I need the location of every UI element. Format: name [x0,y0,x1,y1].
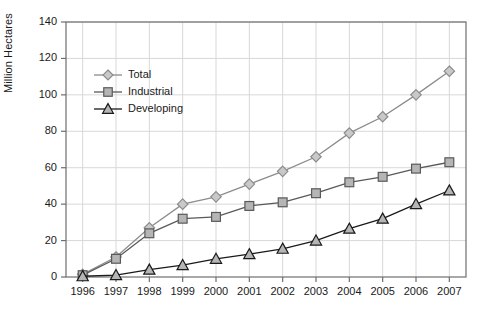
series-line [83,190,450,276]
data-point-square [145,229,154,238]
series-industrial [78,158,454,280]
data-point-square [104,88,113,97]
data-point-diamond [411,90,421,100]
legend-label-total: Total [128,69,151,80]
data-point-square [445,158,454,167]
data-point-square [212,212,221,221]
data-point-diamond [344,128,354,138]
data-point-diamond [311,152,321,162]
series-developing [77,185,455,281]
data-point-triangle [310,235,321,245]
data-point-square [312,189,321,198]
data-point-diamond [103,70,113,80]
axis-ticks [61,22,449,282]
data-point-square [412,164,421,173]
data-point-triangle [410,199,421,209]
line-chart: Million Hectares 020406080100120140 1996… [0,0,485,318]
data-point-square [245,202,254,211]
plot-border [66,22,466,277]
data-point-diamond [444,66,454,76]
gridlines [66,22,466,277]
data-point-diamond [211,192,221,202]
data-point-triangle [444,185,455,195]
data-point-diamond [177,199,187,209]
plot-frame [66,22,466,277]
data-point-diamond [377,112,387,122]
data-point-square [278,198,287,207]
legend-label-developing: Developing [128,103,183,114]
data-point-triangle [377,213,388,223]
data-point-square [378,172,387,181]
data-point-square [112,254,121,263]
series-line [83,162,450,275]
legend-label-industrial: Industrial [128,86,173,97]
data-point-diamond [244,179,254,189]
data-point-square [178,214,187,223]
plot-area [0,0,485,318]
data-point-square [345,178,354,187]
